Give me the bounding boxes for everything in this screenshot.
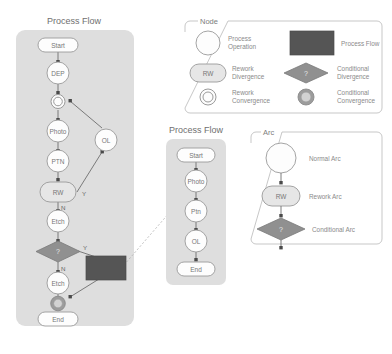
node-dep[interactable]: DEP <box>47 62 69 84</box>
node-etch-2-label: Etch <box>51 280 64 287</box>
node-dep-label: DEP <box>51 70 64 77</box>
sub-node-start-label: Start <box>189 152 203 159</box>
legend-arrowhead-normal <box>279 181 282 184</box>
node-ol[interactable]: OL <box>95 129 117 151</box>
node-etch-2[interactable]: Etch <box>47 272 69 294</box>
sub-node-ptn-label: Ptn <box>191 208 201 215</box>
branch-label-rw-yes: Y <box>82 190 86 197</box>
legend-node-label-0b: Operation <box>228 43 257 51</box>
node-etch-1-label: Etch <box>51 218 64 225</box>
node-conditional-glyph: ? <box>56 248 60 255</box>
legend-node-label-5a: Conditional <box>337 89 369 96</box>
node-ptn-label: PTN <box>52 158 65 165</box>
legend-arrowhead-cond <box>279 246 282 249</box>
sub-node-end[interactable]: End <box>177 262 215 276</box>
legend-arc-title: Arc <box>263 128 275 137</box>
legend-icon-normal-arc <box>266 143 296 173</box>
sub-flow-title: Process Flow <box>169 125 224 135</box>
branch-label-cond-yes: Y <box>83 244 87 251</box>
node-etch-1[interactable]: Etch <box>47 210 69 232</box>
legend-node-label-3a: Conditional <box>337 65 369 72</box>
legend-icon-conditional-convergence <box>298 89 314 105</box>
sub-node-photo[interactable]: Photo <box>185 170 207 192</box>
node-rw[interactable]: RW <box>40 182 76 202</box>
node-process-flow-ref[interactable] <box>86 256 126 280</box>
diagram-canvas: Process Flow <box>0 0 392 354</box>
sub-node-start[interactable]: Start <box>177 148 215 162</box>
node-end[interactable]: End <box>38 312 78 326</box>
sub-node-ol-label: OL <box>192 238 201 245</box>
node-end-label: End <box>52 316 64 323</box>
legend-arc-label-1: Rework Arc <box>309 193 342 200</box>
node-ol-label: OL <box>102 137 111 144</box>
sub-node-end-label: End <box>190 266 202 273</box>
legend-node-label-3b: Divergence <box>337 73 370 81</box>
legend-arc-glyph-rw: RW <box>276 193 288 200</box>
legend-node-label-4a: Rework <box>232 89 254 96</box>
legend-arrowhead-rework <box>279 214 282 217</box>
legend-icon-process-operation <box>196 31 220 55</box>
node-conditional-convergence[interactable] <box>51 296 66 311</box>
legend-node-label-4b: Convergence <box>232 97 270 105</box>
legend-node-label-2a: Rework <box>232 65 254 72</box>
legend-node-label-1a: Process Flow <box>341 40 380 47</box>
legend-node-glyph-cond: ? <box>304 70 308 77</box>
legend-arc-label-2: Conditional Arc <box>312 226 356 233</box>
sub-node-ol[interactable]: OL <box>185 230 207 252</box>
branch-label-cond-no: N <box>61 265 65 272</box>
sub-node-photo-label: Photo <box>188 178 205 185</box>
legend-node: Node Process Operation Process Flow RW R… <box>185 17 382 113</box>
main-flow-panel <box>16 30 134 326</box>
node-rework-convergence[interactable] <box>51 95 65 109</box>
sub-node-ptn[interactable]: Ptn <box>185 200 207 222</box>
node-photo[interactable]: Photo <box>47 120 69 142</box>
node-ptn[interactable]: PTN <box>47 150 69 172</box>
legend-node-label-2b: Divergence <box>232 73 265 81</box>
node-start-label: Start <box>51 42 65 49</box>
legend-arc: Arc Normal Arc RW Rework Arc ? Condition… <box>251 128 382 249</box>
legend-node-title: Node <box>200 17 218 26</box>
legend-node-label-5b: Convergence <box>337 97 375 105</box>
node-rw-label: RW <box>53 189 65 196</box>
process-flow-illustration: Process Flow <box>0 0 392 354</box>
main-flow-title: Process Flow <box>47 16 102 26</box>
node-start[interactable]: Start <box>38 38 78 52</box>
legend-arc-label-0: Normal Arc <box>309 155 341 162</box>
legend-node-glyph-rw: RW <box>203 70 215 77</box>
legend-node-label-0a: Process <box>228 35 251 42</box>
branch-label-rw-no: N <box>61 204 65 211</box>
node-photo-label: Photo <box>50 128 67 135</box>
legend-arc-glyph-cond: ? <box>279 226 283 233</box>
legend-icon-process-flow <box>290 31 334 55</box>
legend-icon-rework-convergence <box>200 89 216 105</box>
